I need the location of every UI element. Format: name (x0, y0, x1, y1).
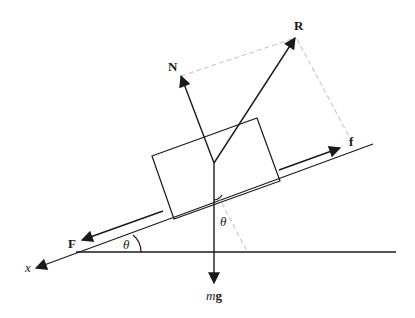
free-body-diagram: N R f F θ θ x mg (0, 0, 415, 318)
label-weight-gravity: g (215, 288, 222, 303)
resultant-force-arrow (214, 38, 295, 163)
label-friction: f (349, 134, 354, 149)
label-normal-force: N (168, 59, 178, 74)
weight-angle-arc (214, 195, 222, 200)
label-incline-angle: θ (123, 237, 130, 252)
label-weight: mg (206, 288, 222, 303)
normal-force-arrow (181, 76, 214, 163)
dashed-n-to-r (181, 38, 295, 76)
label-applied-force: F (68, 236, 76, 251)
label-resultant: R (294, 18, 304, 33)
dashed-r-to-f (297, 39, 352, 142)
incline-angle-arc (133, 235, 141, 252)
label-weight-mass: m (206, 288, 215, 303)
label-x-axis: x (24, 260, 31, 275)
label-weight-angle: θ (220, 214, 227, 229)
block (152, 118, 280, 219)
incline-line (36, 144, 373, 268)
